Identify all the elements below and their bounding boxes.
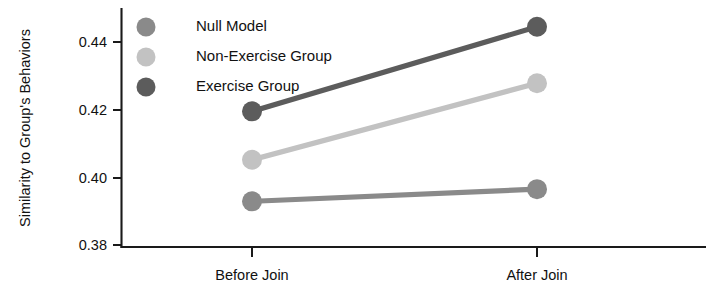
- data-point-non-exercise-group-after-join: [527, 73, 547, 93]
- series-layer: [242, 17, 547, 212]
- legend-marker-null-model: [137, 18, 156, 37]
- chart-figure: 0.44 0.42 0.40 0.38 Similarity to Group'…: [0, 0, 710, 307]
- y-tick-label-0.42: 0.42: [79, 102, 107, 118]
- y-axis-title: Similarity to Group's Behaviors: [17, 29, 33, 227]
- data-point-null-model-after-join: [527, 179, 547, 199]
- legend-marker-non-exercise-group: [137, 48, 156, 67]
- x-tick-label-after-join: After Join: [506, 267, 567, 283]
- y-tick-label-0.44: 0.44: [79, 34, 107, 50]
- series-line-exercise-group: [252, 27, 537, 112]
- series-exercise-group: [242, 17, 547, 122]
- series-line-non-exercise-group: [252, 83, 537, 159]
- line-chart: 0.44 0.42 0.40 0.38 Similarity to Group'…: [0, 0, 710, 307]
- legend: Null Model Non-Exercise Group Exercise G…: [137, 17, 332, 97]
- data-point-null-model-before-join: [242, 191, 262, 211]
- legend-label-exercise-group: Exercise Group: [196, 77, 299, 94]
- series-line-null-model: [252, 189, 537, 201]
- x-tick-label-before-join: Before Join: [215, 267, 288, 283]
- data-point-exercise-group-after-join: [527, 17, 547, 37]
- data-point-exercise-group-before-join: [242, 101, 262, 121]
- legend-marker-exercise-group: [137, 78, 156, 97]
- y-tick-label-0.38: 0.38: [79, 237, 107, 253]
- legend-label-non-exercise-group: Non-Exercise Group: [196, 47, 332, 64]
- x-axis-ticks: [252, 247, 537, 257]
- series-null-model: [242, 179, 547, 211]
- data-point-non-exercise-group-before-join: [242, 150, 262, 170]
- y-tick-label-0.40: 0.40: [79, 170, 107, 186]
- legend-label-null-model: Null Model: [196, 17, 267, 34]
